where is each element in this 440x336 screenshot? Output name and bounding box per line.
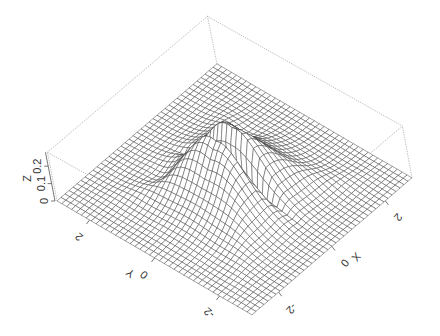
x-tick-label: -2 <box>284 301 299 316</box>
x-tick-mark <box>279 292 282 296</box>
y-tick-mark <box>217 296 220 300</box>
y-tick-label: -2 <box>201 305 216 320</box>
x-axis-label: X <box>349 250 363 264</box>
z-tick-label: 0.1 <box>35 176 47 191</box>
x-tick-mark <box>332 247 335 251</box>
y-tick-mark <box>152 258 155 262</box>
x-tick-label: 2 <box>392 211 405 223</box>
z-axis-label: Z <box>21 175 33 182</box>
y-tick-label: 0 <box>138 268 150 281</box>
box-edge <box>402 126 412 178</box>
x-tick-label: 0 <box>338 257 351 269</box>
x-tick-mark <box>385 201 388 205</box>
z-tick-label: 0.2 <box>31 159 43 174</box>
y-tick-mark <box>87 220 90 224</box>
surface-plot: 00.10.2 Z -202 X -202 Y <box>0 0 440 336</box>
box-edge <box>47 152 57 201</box>
z-axis-line <box>45 152 55 201</box>
box-edge <box>207 16 217 64</box>
y-tick-label: 2 <box>73 230 85 243</box>
y-axis-label: Y <box>123 266 137 280</box>
z-tick-label: 0 <box>38 198 50 204</box>
